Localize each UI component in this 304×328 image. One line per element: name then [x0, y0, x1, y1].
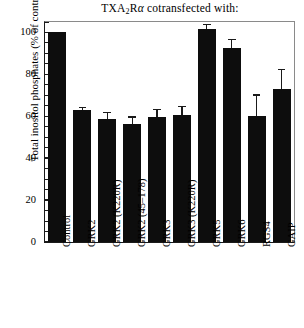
bar-grk6 — [223, 48, 241, 242]
chart-title-pre: TXA — [101, 2, 125, 14]
error-bar-cap — [103, 112, 111, 113]
chart-title-mid: R — [130, 2, 138, 14]
x-axis-tick-label: GRK6 — [236, 220, 247, 247]
error-bar-stem — [256, 94, 257, 116]
chart-title-post: cotransfected with: — [144, 2, 239, 14]
plot-frame — [44, 21, 295, 243]
bar-grk5 — [198, 29, 216, 242]
x-axis-tick-label: Control — [61, 215, 72, 247]
y-axis-tick-label: 100 — [0, 27, 36, 37]
y-axis-minor-tick — [45, 22, 49, 23]
y-axis-tick-label: 60 — [0, 111, 36, 121]
error-bar-cap — [203, 24, 211, 25]
y-axis-tick-label: 40 — [0, 153, 36, 163]
y-axis-tick-label: 0 — [0, 237, 36, 247]
x-axis-tick-label: GAIP — [286, 222, 297, 247]
x-axis-tick-label: GRK2 (45–178) — [136, 178, 147, 247]
error-bar-cap — [79, 107, 87, 108]
x-axis-tick-label: GRK2 (K220R) — [111, 180, 122, 247]
x-axis-tick-label: GRK5 — [211, 220, 222, 247]
error-bar-cap — [253, 94, 261, 95]
error-bar-cap — [178, 106, 186, 107]
y-axis-tick-label: 20 — [0, 195, 36, 205]
plot-area — [45, 22, 294, 242]
bar-control — [48, 32, 66, 242]
error-bar-stem — [181, 106, 182, 115]
error-bar-stem — [231, 39, 232, 48]
error-bar-cap — [228, 39, 236, 40]
error-bar-cap — [278, 69, 286, 70]
chart-title: TXA2Rα cotransfected with: — [44, 2, 296, 16]
bar-gaip — [273, 89, 291, 242]
x-axis-tick-label: GRK3 — [161, 220, 172, 247]
error-bar-stem — [281, 69, 282, 89]
error-bar-cap — [153, 109, 161, 110]
y-axis-tick-label: 80 — [0, 69, 36, 79]
figure: TXA2Rα cotransfected with: Total inosito… — [0, 0, 304, 328]
x-axis-tick-label: RGS4 — [261, 221, 272, 247]
x-axis-tick-label: GRK2 — [86, 220, 97, 247]
x-axis-tick-label: GRK3 (K220R) — [186, 180, 197, 247]
error-bar-cap — [128, 116, 136, 117]
